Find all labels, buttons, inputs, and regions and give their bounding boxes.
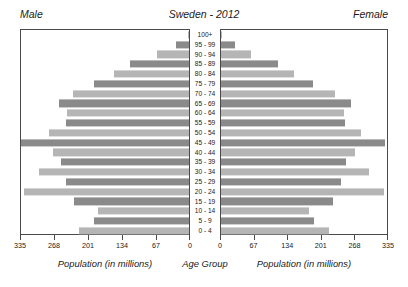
male-bar — [79, 227, 189, 234]
female-bar — [221, 178, 341, 185]
female-bar — [221, 70, 294, 77]
female-bar — [221, 139, 385, 146]
bar-row — [221, 177, 387, 187]
male-bar — [61, 159, 189, 166]
bar-row — [221, 167, 387, 177]
female-bar — [221, 149, 355, 156]
female-bar — [221, 61, 278, 68]
age-group-label: 80 - 84 — [190, 70, 220, 77]
female-bar — [221, 51, 251, 58]
male-bar — [98, 208, 189, 215]
female-bar — [221, 198, 333, 205]
bar-row — [221, 69, 387, 79]
axis-tick — [387, 235, 388, 240]
bar-row — [21, 128, 189, 138]
bar-row — [221, 216, 387, 226]
axis-tick — [20, 235, 21, 240]
population-pyramid-chart: Male Sweden - 2012 Female 100+95 - 9990 … — [0, 0, 408, 287]
age-group-label: 75 - 79 — [190, 79, 220, 86]
bar-row — [221, 206, 387, 216]
female-bar — [221, 208, 309, 215]
bar-row — [21, 138, 189, 148]
axis-tick-label: 0 — [218, 241, 222, 250]
axis-tick — [122, 235, 123, 240]
axis-tick — [354, 235, 355, 240]
axis-tick-label: 201 — [82, 241, 94, 250]
female-side-label: Female — [353, 8, 388, 20]
axis-tick — [54, 235, 55, 240]
bar-row — [221, 197, 387, 207]
bar-row — [221, 108, 387, 118]
bar-row — [21, 197, 189, 207]
male-bar — [94, 80, 189, 87]
bar-row — [21, 89, 189, 99]
female-bar — [221, 227, 329, 234]
female-x-axis: 067134201268335 — [220, 235, 388, 241]
axis-tick — [189, 235, 190, 240]
age-group-label: 15 - 19 — [190, 197, 220, 204]
age-group-label: 25 - 29 — [190, 178, 220, 185]
axis-tick — [254, 235, 255, 240]
axis-tick-label: 268 — [348, 241, 360, 250]
female-bar — [221, 41, 235, 48]
male-bar — [39, 168, 189, 175]
axis-tick — [88, 235, 89, 240]
male-bar — [66, 119, 189, 126]
male-bar — [24, 188, 189, 195]
bar-row — [21, 30, 189, 40]
bar-row — [21, 118, 189, 128]
bar-row — [21, 187, 189, 197]
axis-tick — [321, 235, 322, 240]
bar-row — [221, 157, 387, 167]
bar-row — [221, 187, 387, 197]
male-bar — [73, 90, 189, 97]
bar-row — [21, 99, 189, 109]
male-bar — [74, 198, 189, 205]
male-bar — [66, 178, 189, 185]
axis-tick-label: 67 — [152, 241, 160, 250]
bar-row — [221, 148, 387, 158]
bar-row — [21, 157, 189, 167]
axis-tick-label: 134 — [281, 241, 293, 250]
male-bar-rows — [21, 30, 189, 234]
bar-row — [221, 50, 387, 60]
female-bar — [221, 188, 384, 195]
male-bar — [67, 110, 189, 117]
age-group-label: 100+ — [190, 30, 220, 37]
chart-title: Sweden - 2012 — [0, 8, 408, 20]
age-group-label: 20 - 24 — [190, 187, 220, 194]
bar-row — [21, 59, 189, 69]
axis-tick — [287, 235, 288, 240]
male-bar — [94, 217, 189, 224]
female-bar — [221, 80, 313, 87]
male-bar — [157, 51, 189, 58]
age-group-label: 85 - 89 — [190, 60, 220, 67]
bar-row — [21, 206, 189, 216]
male-bar — [21, 139, 189, 146]
age-group-label: 10 - 14 — [190, 207, 220, 214]
bar-row — [21, 177, 189, 187]
bar-row — [221, 99, 387, 109]
axis-tick-label: 134 — [116, 241, 128, 250]
bar-row — [221, 30, 387, 40]
age-group-label: 60 - 64 — [190, 109, 220, 116]
age-group-label: 5 - 9 — [190, 217, 220, 224]
axis-tick-label: 0 — [188, 241, 192, 250]
age-group-label: 70 - 74 — [190, 89, 220, 96]
axis-tick-label: 268 — [48, 241, 60, 250]
age-group-label: 65 - 69 — [190, 99, 220, 106]
bar-row — [221, 89, 387, 99]
bar-row — [21, 69, 189, 79]
axis-tick-label: 335 — [382, 241, 394, 250]
bar-row — [21, 216, 189, 226]
male-bar — [59, 100, 189, 107]
age-group-label: 45 - 49 — [190, 138, 220, 145]
bar-row — [21, 167, 189, 177]
female-bar-rows — [221, 30, 387, 234]
age-group-label: 0 - 4 — [190, 227, 220, 234]
female-bar — [221, 217, 314, 224]
axis-tick — [156, 235, 157, 240]
bar-row — [21, 108, 189, 118]
age-group-label: 35 - 39 — [190, 158, 220, 165]
male-bar — [188, 31, 189, 38]
